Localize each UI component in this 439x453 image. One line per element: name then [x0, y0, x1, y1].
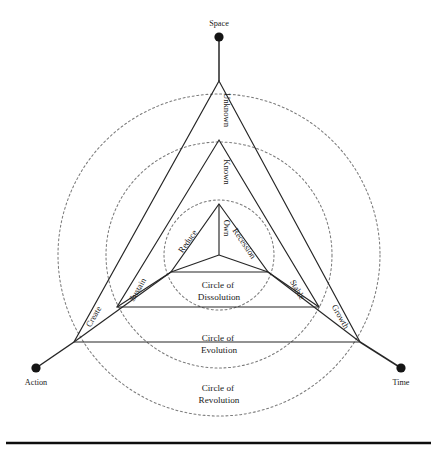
axis-label-unknown: Unknown [222, 93, 232, 128]
axis-label-known: Known [222, 159, 232, 185]
centroid-spoke-left [171, 255, 219, 272]
node-dot-time [396, 363, 405, 372]
edge-label-create: Create [83, 304, 103, 329]
node-label-action: Action [25, 378, 47, 387]
node-dot-action [31, 363, 40, 372]
spoke-time [360, 342, 401, 368]
node-label-space: Space [209, 19, 229, 28]
edge-label-recession: Recession [231, 226, 259, 261]
diagram-page: Unknown Known Own Create Sustain Reduce … [0, 0, 439, 453]
ring-caption-dissolution-line1: Circle of [202, 280, 235, 290]
node-label-time: Time [393, 378, 410, 387]
ring-caption-evolution-line2: Evolution [201, 345, 238, 355]
spoke-action [36, 342, 74, 368]
connector-left-mid [117, 272, 171, 307]
ring-caption-dissolution-line2: Dissolution [198, 292, 241, 302]
ring-caption-revolution-line1: Circle of [202, 383, 235, 393]
ring-caption-evolution: Circle of Evolution [201, 333, 238, 355]
axis-label-own: Own [222, 220, 232, 237]
ring-caption-group: Circle of Dissolution Circle of Evolutio… [198, 280, 241, 405]
node-dot-space [214, 32, 223, 41]
edge-label-growth: Growth [330, 303, 352, 331]
concentric-triangles-diagram: Unknown Known Own Create Sustain Reduce … [0, 0, 439, 453]
centroid-spoke-right [219, 255, 268, 272]
ring-caption-revolution-line2: Revolution [199, 395, 240, 405]
edge-label-reduce: Reduce [176, 228, 199, 255]
ring-caption-revolution: Circle of Revolution [199, 383, 240, 405]
ring-caption-evolution-line1: Circle of [202, 333, 235, 343]
ring-caption-dissolution: Circle of Dissolution [198, 280, 241, 302]
node-group: Space Action Time [25, 19, 410, 387]
